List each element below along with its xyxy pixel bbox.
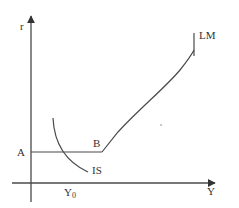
y0-label: Y0	[64, 186, 76, 200]
lm-label: LM	[199, 29, 216, 41]
y-axis-label: Y	[207, 185, 215, 197]
is-curve	[53, 118, 88, 172]
point-a-label: A	[17, 146, 25, 158]
r-axis-label: r	[20, 20, 24, 32]
lm-curve	[102, 50, 194, 152]
stray-dot	[160, 124, 161, 125]
is-lm-diagram: r Y A B LM IS Y0	[0, 0, 239, 208]
point-b-label: B	[93, 137, 100, 149]
is-label: IS	[92, 164, 102, 176]
